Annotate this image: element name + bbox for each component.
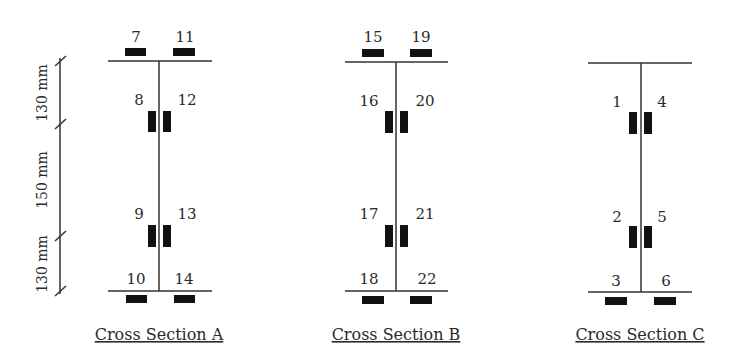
strain-gauge [148, 225, 156, 247]
gauge-label: 13 [177, 205, 196, 223]
strain-gauge [400, 111, 408, 133]
strain-gauge [410, 296, 432, 304]
gauge-label: 6 [661, 272, 671, 290]
strain-gauge [126, 295, 147, 303]
strain-gauge [410, 49, 432, 57]
dimension-label-middle: 150 mm [34, 151, 50, 209]
gauge-label: 9 [134, 205, 144, 223]
strain-gauge [163, 111, 171, 132]
gauge-label: 2 [612, 208, 622, 226]
gauge-label: 5 [657, 208, 667, 226]
strain-gauge [629, 112, 637, 134]
section-caption: Cross Section C [575, 325, 704, 344]
gauge-label: 3 [611, 272, 621, 290]
gauge-label: 21 [415, 205, 434, 223]
gauge-label: 22 [417, 270, 436, 288]
strain-gauge [605, 297, 627, 305]
cross-section-a: 7 11 8 12 9 13 10 14 Cross Section A [95, 28, 224, 344]
dimension-label-bottom: 130 mm [34, 235, 50, 293]
gauge-label: 15 [363, 28, 382, 46]
section-caption: Cross Section B [332, 325, 461, 344]
gauge-label: 4 [657, 93, 667, 111]
strain-gauge [385, 111, 393, 133]
gauge-label: 19 [411, 28, 430, 46]
strain-gauge [385, 225, 393, 247]
strain-gauge [400, 225, 408, 247]
strain-gauge [173, 48, 195, 56]
gauge-label: 17 [359, 205, 378, 223]
strain-gauge [654, 297, 676, 305]
strain-gauge [125, 48, 146, 56]
strain-gauge [362, 49, 384, 57]
gauge-label: 10 [126, 270, 145, 288]
strain-gauge [174, 295, 195, 303]
section-caption: Cross Section A [95, 325, 224, 344]
gauge-label: 16 [359, 92, 378, 110]
strain-gauge [362, 296, 384, 304]
cross-sections-diagram: 130 mm 150 mm 130 mm 7 11 8 12 9 13 10 1… [0, 0, 737, 361]
strain-gauge [644, 112, 652, 134]
gauge-label: 20 [415, 92, 434, 110]
cross-section-c: 1 4 2 5 3 6 Cross Section C [575, 63, 704, 344]
gauge-label: 11 [175, 28, 194, 46]
dimension-label-top: 130 mm [34, 64, 50, 122]
strain-gauge [644, 226, 652, 248]
gauge-label: 1 [612, 93, 622, 111]
gauge-label: 18 [359, 270, 378, 288]
strain-gauge [629, 226, 637, 248]
gauge-label: 7 [131, 28, 141, 46]
cross-section-b: 15 19 16 20 17 21 18 22 Cross Section B [332, 28, 461, 344]
gauge-label: 12 [177, 91, 196, 109]
dimension-line: 130 mm 150 mm 130 mm [34, 56, 66, 296]
gauge-label: 14 [174, 270, 193, 288]
strain-gauge [148, 111, 156, 132]
gauge-label: 8 [134, 91, 144, 109]
strain-gauge [163, 225, 171, 247]
